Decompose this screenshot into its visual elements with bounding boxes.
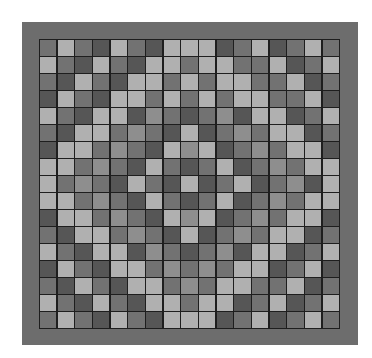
grid-cell[interactable] <box>199 159 215 175</box>
grid-cell[interactable] <box>199 278 215 294</box>
grid-cell[interactable] <box>305 244 321 260</box>
grid-cell[interactable] <box>40 74 56 90</box>
grid-cell[interactable] <box>252 91 268 107</box>
grid-cell[interactable] <box>305 40 321 56</box>
grid-cell[interactable] <box>252 227 268 243</box>
grid-cell[interactable] <box>58 74 74 90</box>
grid-cell[interactable] <box>181 244 197 260</box>
grid-cell[interactable] <box>305 193 321 209</box>
grid-cell[interactable] <box>75 176 91 192</box>
grid-cell[interactable] <box>128 108 144 124</box>
grid-cell[interactable] <box>75 312 91 328</box>
grid-cell[interactable] <box>270 108 286 124</box>
grid-cell[interactable] <box>270 193 286 209</box>
grid-cell[interactable] <box>305 312 321 328</box>
grid-cell[interactable] <box>40 244 56 260</box>
grid-cell[interactable] <box>146 142 162 158</box>
grid-cell[interactable] <box>128 142 144 158</box>
grid-cell[interactable] <box>234 74 250 90</box>
grid-cell[interactable] <box>234 159 250 175</box>
grid-cell[interactable] <box>58 125 74 141</box>
grid-cell[interactable] <box>252 312 268 328</box>
grid-cell[interactable] <box>75 57 91 73</box>
grid-cell[interactable] <box>234 193 250 209</box>
grid-cell[interactable] <box>270 125 286 141</box>
grid-cell[interactable] <box>181 227 197 243</box>
grid-cell[interactable] <box>217 108 233 124</box>
grid-cell[interactable] <box>164 40 180 56</box>
grid-cell[interactable] <box>111 142 127 158</box>
grid-cell[interactable] <box>40 295 56 311</box>
grid-cell[interactable] <box>75 125 91 141</box>
grid-cell[interactable] <box>323 176 339 192</box>
grid-cell[interactable] <box>146 91 162 107</box>
grid-cell[interactable] <box>234 57 250 73</box>
grid-cell[interactable] <box>164 108 180 124</box>
grid-cell[interactable] <box>164 244 180 260</box>
grid-cell[interactable] <box>199 193 215 209</box>
grid-cell[interactable] <box>75 40 91 56</box>
grid-cell[interactable] <box>199 142 215 158</box>
grid-cell[interactable] <box>146 159 162 175</box>
grid-cell[interactable] <box>40 125 56 141</box>
grid-cell[interactable] <box>323 295 339 311</box>
grid-cell[interactable] <box>111 91 127 107</box>
grid-cell[interactable] <box>40 227 56 243</box>
grid-cell[interactable] <box>270 278 286 294</box>
grid-cell[interactable] <box>234 210 250 226</box>
grid-cell[interactable] <box>111 176 127 192</box>
grid-cell[interactable] <box>270 74 286 90</box>
grid-cell[interactable] <box>199 295 215 311</box>
grid-cell[interactable] <box>146 278 162 294</box>
grid-cell[interactable] <box>40 91 56 107</box>
grid-cell[interactable] <box>270 210 286 226</box>
grid-cell[interactable] <box>146 227 162 243</box>
grid-cell[interactable] <box>287 74 303 90</box>
grid-cell[interactable] <box>181 261 197 277</box>
grid-cell[interactable] <box>305 295 321 311</box>
grid-cell[interactable] <box>128 125 144 141</box>
grid-cell[interactable] <box>181 312 197 328</box>
grid-cell[interactable] <box>199 108 215 124</box>
grid-cell[interactable] <box>164 125 180 141</box>
grid-cell[interactable] <box>181 176 197 192</box>
grid-cell[interactable] <box>234 312 250 328</box>
grid-cell[interactable] <box>111 261 127 277</box>
grid-cell[interactable] <box>199 125 215 141</box>
grid-cell[interactable] <box>287 142 303 158</box>
grid-cell[interactable] <box>217 176 233 192</box>
grid-cell[interactable] <box>146 210 162 226</box>
grid-cell[interactable] <box>199 227 215 243</box>
grid-cell[interactable] <box>164 261 180 277</box>
grid-cell[interactable] <box>252 210 268 226</box>
grid-cell[interactable] <box>287 176 303 192</box>
grid-cell[interactable] <box>252 108 268 124</box>
grid-cell[interactable] <box>323 278 339 294</box>
grid-cell[interactable] <box>270 159 286 175</box>
grid-cell[interactable] <box>128 176 144 192</box>
grid-cell[interactable] <box>181 210 197 226</box>
grid-cell[interactable] <box>270 312 286 328</box>
grid-cell[interactable] <box>93 74 109 90</box>
grid-cell[interactable] <box>146 244 162 260</box>
grid-cell[interactable] <box>217 261 233 277</box>
grid-cell[interactable] <box>181 91 197 107</box>
grid-cell[interactable] <box>323 261 339 277</box>
grid-cell[interactable] <box>305 91 321 107</box>
grid-cell[interactable] <box>252 125 268 141</box>
grid-cell[interactable] <box>181 57 197 73</box>
grid-cell[interactable] <box>146 74 162 90</box>
grid-cell[interactable] <box>40 193 56 209</box>
grid-cell[interactable] <box>58 227 74 243</box>
grid-cell[interactable] <box>252 193 268 209</box>
grid-cell[interactable] <box>305 159 321 175</box>
grid-cell[interactable] <box>270 295 286 311</box>
grid-cell[interactable] <box>305 125 321 141</box>
grid-cell[interactable] <box>111 244 127 260</box>
grid-cell[interactable] <box>305 278 321 294</box>
grid-cell[interactable] <box>164 193 180 209</box>
grid-cell[interactable] <box>75 261 91 277</box>
grid-cell[interactable] <box>323 91 339 107</box>
grid-cell[interactable] <box>111 57 127 73</box>
grid-cell[interactable] <box>164 278 180 294</box>
